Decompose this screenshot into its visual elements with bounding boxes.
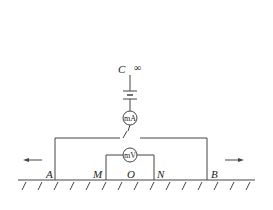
wire-voltmeter-n [137, 155, 154, 180]
label-infinity: ∞ [134, 62, 141, 73]
voltmeter: mV [123, 148, 137, 162]
wire-ammeter-switch [128, 125, 130, 131]
ground-hatch-icon [22, 182, 250, 190]
wire-left-a [55, 138, 120, 180]
circuit-diagram: C ∞ mA mV A M O N B [0, 0, 273, 210]
switch-icon [123, 131, 127, 138]
battery-icon [123, 91, 137, 99]
wire-m-voltmeter [106, 155, 123, 180]
label-n: N [156, 168, 165, 180]
label-o: O [127, 168, 135, 180]
ammeter-label: mA [124, 114, 136, 123]
label-m: M [92, 168, 103, 180]
voltmeter-label: mV [124, 151, 136, 160]
label-a: A [45, 168, 53, 180]
label-c: C [118, 63, 126, 75]
wire-right-b [140, 138, 207, 180]
left-arrow-icon [23, 158, 42, 162]
right-arrow-icon [225, 158, 244, 162]
ammeter: mA [123, 111, 137, 125]
label-b: B [211, 168, 218, 180]
